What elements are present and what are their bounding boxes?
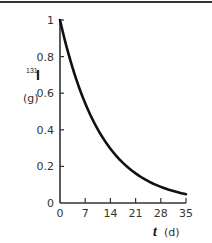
- y-tick-label: 0.6: [37, 87, 55, 100]
- y-tick-label: 0.2: [37, 160, 55, 173]
- x-label-unit: (d): [164, 226, 180, 239]
- x-tick-label: 28: [154, 207, 168, 220]
- y-tick-label: 0.8: [37, 51, 55, 64]
- x-tick-label: 35: [179, 207, 193, 220]
- decay-curve: [60, 20, 186, 194]
- x-axis-ticks: 0714212835: [57, 198, 194, 220]
- axes: [60, 20, 186, 203]
- x-tick-label: 21: [129, 207, 143, 220]
- decay-chart: 00.20.40.60.81 0714212835 131 I (g) t (d…: [0, 0, 212, 243]
- y-label-unit: (g): [23, 92, 39, 105]
- y-tick-label: 1: [47, 14, 54, 27]
- y-tick-label: 0: [47, 197, 54, 210]
- x-tick-label: 0: [57, 207, 64, 220]
- x-label-variable: t: [153, 224, 158, 239]
- x-tick-label: 14: [103, 207, 117, 220]
- y-label-element: I: [36, 67, 40, 83]
- y-tick-label: 0.4: [37, 124, 55, 137]
- x-tick-label: 7: [82, 207, 89, 220]
